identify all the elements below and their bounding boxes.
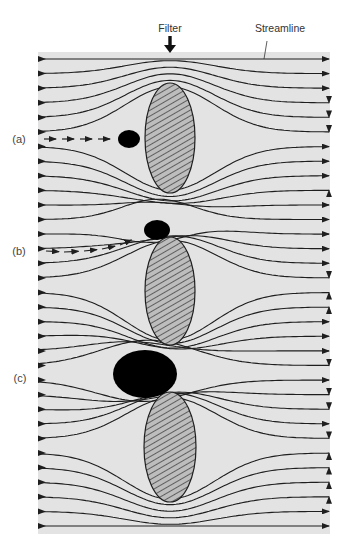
filtration-diagram: Filter Streamline (a) (b) (c) xyxy=(0,0,349,545)
particle-b xyxy=(144,220,170,240)
particle-a xyxy=(118,130,140,148)
filter-fiber-1 xyxy=(145,83,195,193)
streamline-label: Streamline xyxy=(255,22,305,34)
filter-arrow-icon xyxy=(164,36,176,53)
filter-fiber-3 xyxy=(144,392,196,502)
case-label-b: (b) xyxy=(12,245,25,257)
filter-label: Filter xyxy=(158,22,182,34)
case-label-c: (c) xyxy=(14,372,27,384)
particle-path-b-segment xyxy=(64,251,78,252)
filter-fiber-2 xyxy=(145,237,195,345)
case-label-a: (a) xyxy=(12,133,25,145)
particle-c xyxy=(113,350,177,398)
particle-path-b-segment xyxy=(46,251,59,252)
